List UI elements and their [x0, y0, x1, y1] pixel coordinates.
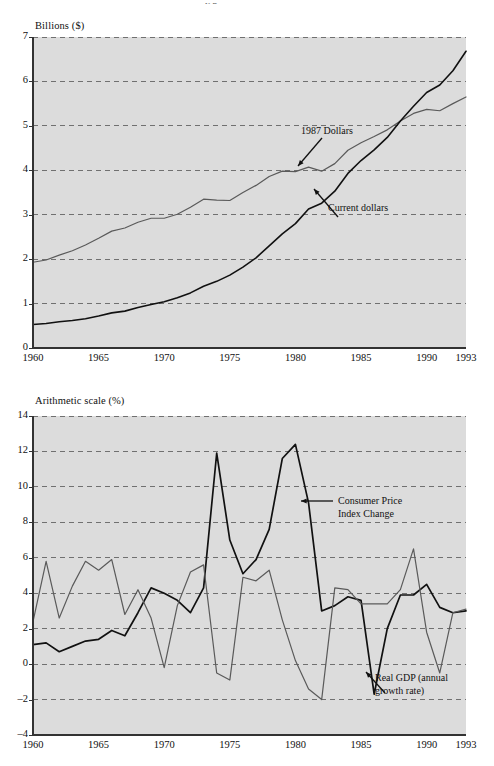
y-tick-label: 10 [6, 480, 28, 491]
chart1-y-axis-title: Billions ($) [35, 20, 84, 31]
x-tick-label: 1975 [210, 739, 250, 750]
y-tick-mark [29, 700, 33, 701]
chart2-annotation-cpi-line1: Consumer Price [338, 495, 402, 506]
y-tick-label: 12 [6, 444, 28, 455]
x-tick-label: 1960 [13, 352, 53, 363]
y-tick-mark [29, 215, 33, 216]
y-tick-label: 7 [6, 30, 28, 41]
x-tick-label: 1970 [144, 352, 184, 363]
y-tick-mark [29, 487, 33, 488]
chart2-annotation-real-gdp: Real GDP (annual growth rate) [375, 672, 494, 697]
y-tick-label: 2 [6, 252, 28, 263]
chart1-annotation-1987-dollars: 1987 Dollars [301, 125, 353, 138]
x-tick-label: 1985 [341, 739, 381, 750]
x-tick-label: 1970 [144, 739, 184, 750]
y-tick-label: –2 [6, 693, 28, 704]
y-tick-mark [29, 416, 33, 417]
chart1-svg [33, 37, 466, 348]
y-tick-mark [29, 451, 33, 452]
y-tick-mark [29, 304, 33, 305]
x-tick-label: 1965 [79, 352, 119, 363]
y-tick-mark [29, 348, 33, 349]
y-tick-mark [29, 259, 33, 260]
chart2-annotation-cpi: Consumer Price Index Change [338, 495, 443, 520]
y-tick-mark [29, 593, 33, 594]
y-tick-mark [29, 126, 33, 127]
x-tick-label: 1985 [341, 352, 381, 363]
y-tick-label: 6 [6, 74, 28, 85]
y-tick-label: 8 [6, 515, 28, 526]
y-tick-label: 5 [6, 119, 28, 130]
y-tick-label: 3 [6, 208, 28, 219]
x-tick-label: 1993 [446, 352, 486, 363]
x-tick-label: 1990 [407, 352, 447, 363]
y-tick-mark [29, 664, 33, 665]
y-tick-mark [29, 558, 33, 559]
y-tick-mark [29, 37, 33, 38]
x-tick-label: 1965 [79, 739, 119, 750]
x-tick-label: 1993 [446, 739, 486, 750]
chart2-y-axis-title: Arithmetic scale (%) [35, 395, 124, 406]
chart2-annotation-cpi-line2: Index Change [338, 508, 394, 519]
x-tick-label: 1980 [275, 739, 315, 750]
y-tick-label: 6 [6, 551, 28, 562]
chart-inflation-growth: Arithmetic scale (%) –4–202468101214 196… [0, 380, 494, 766]
y-tick-label: 0 [6, 341, 28, 352]
y-tick-label: –4 [6, 728, 28, 739]
x-tick-label: 1975 [210, 352, 250, 363]
y-tick-label: 2 [6, 622, 28, 633]
chart2-annotation-real-gdp-line1: Real GDP (annual [375, 672, 448, 683]
x-tick-label: 1980 [275, 352, 315, 363]
chart1-plot-area [33, 37, 466, 348]
y-tick-label: 0 [6, 657, 28, 668]
y-tick-label: 14 [6, 409, 28, 420]
y-tick-mark [29, 81, 33, 82]
figure-root: y p Billions ($) 01234567 19601965197019… [0, 0, 494, 766]
x-tick-label: 1960 [13, 739, 53, 750]
chart2-annotation-real-gdp-line2: growth rate) [375, 685, 424, 696]
chart1-annotation-current-dollars: Current dollars [328, 202, 388, 215]
y-tick-mark [29, 170, 33, 171]
y-tick-mark [29, 522, 33, 523]
y-tick-mark [29, 735, 33, 736]
y-tick-label: 1 [6, 297, 28, 308]
y-tick-label: 4 [6, 163, 28, 174]
y-tick-label: 4 [6, 586, 28, 597]
y-tick-mark [29, 629, 33, 630]
x-tick-label: 1990 [407, 739, 447, 750]
chart-gdp-levels: Billions ($) 01234567 196019651970197519… [0, 0, 494, 380]
